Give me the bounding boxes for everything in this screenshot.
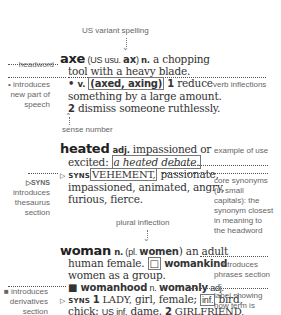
verb-inflections: (axed, axing)	[88, 77, 164, 90]
annotation-sense-number: sense number	[62, 125, 113, 135]
entry-heated-line3: ▷ SYNSVEHEMENT, passionate,	[60, 168, 219, 182]
leader-new-pos	[8, 77, 66, 78]
derivatives-marker: ■	[68, 282, 77, 293]
annotation-verb-inflections: verb inflections	[213, 80, 266, 90]
arrow-line-sense-number	[69, 117, 70, 125]
annotation-core-synonyms: core synonyms (in small capitals): the s…	[214, 176, 273, 236]
annotation-syns-intro: ▷SYNS introduces thesaurus section	[0, 178, 50, 218]
annotation-headword: headword	[12, 60, 54, 70]
arrow-down-icon: ⌄	[122, 44, 129, 52]
entry-axe-line5: 2 dismiss someone ruthlessly.	[68, 102, 220, 115]
example-of-use: a heated debate.	[112, 155, 202, 169]
annotation-phrases-intro: □ introduces phrases section	[214, 260, 270, 280]
variant-ax: ax	[123, 54, 136, 65]
entry-woman-line6: chick; US inf. dame. 2 GIRLFRIEND,	[68, 305, 244, 315]
entry-axe-line4: something by a large amount.	[68, 90, 222, 102]
annotation-derivatives-intro: ■ introduces derivatives section	[0, 287, 48, 315]
entry-axe-line2: tool with a heavy blade.	[68, 65, 190, 77]
annotation-us-variant: US variant spelling	[82, 26, 149, 36]
entry-heated-line5: furious, fierce.	[68, 193, 143, 205]
leader-label	[186, 288, 268, 289]
headword-axe: axe	[60, 51, 85, 66]
headword-heated: heated	[60, 141, 109, 156]
annotation-new-pos: • introduces new part of speech	[0, 80, 50, 110]
leader-example-of-use	[172, 165, 268, 166]
core-synonym: VEHEMENT,	[90, 168, 157, 181]
leader-syns	[28, 173, 58, 174]
entry-heated-line4: impassioned, animated, angry,	[68, 181, 224, 193]
plural-women: women	[139, 246, 178, 257]
entry-woman-line3: women as a group.	[68, 269, 166, 281]
entry-heated-line2: excited: a heated debate.	[68, 156, 201, 168]
entry-axe-line3: • v. (axed, axing) 1 reduce	[68, 77, 213, 90]
headword-woman: woman	[60, 243, 111, 258]
syns-marker: ▷ SYNS	[60, 172, 90, 180]
annotation-plural-inflection: plural inflection	[116, 218, 169, 228]
arrow-down-icon: ⌄	[143, 235, 150, 243]
annotation-example-of-use: example of use	[214, 146, 268, 156]
